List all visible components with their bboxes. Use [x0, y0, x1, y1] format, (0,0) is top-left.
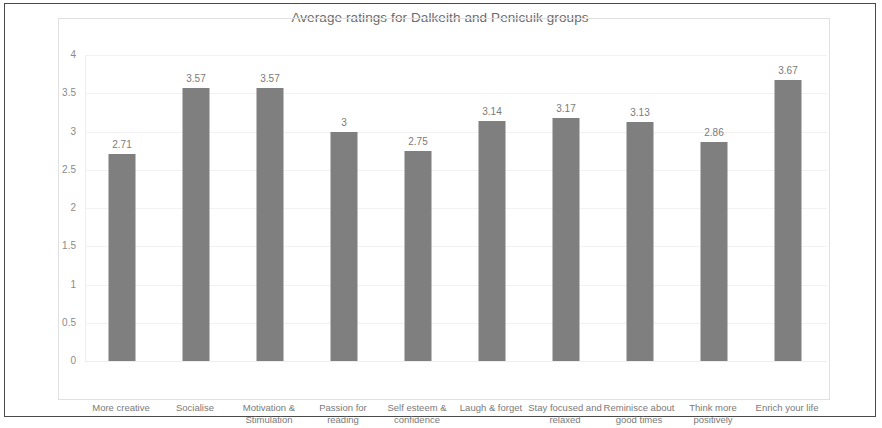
y-axis-tick-label: 4 [36, 49, 76, 60]
x-axis-category-label: Socialise [158, 402, 232, 414]
x-axis-category-label: Laugh & forget [454, 402, 528, 414]
bar[interactable] [775, 80, 802, 361]
bar-series: 2.713.573.5732.753.143.173.132.863.67 [59, 19, 829, 399]
x-axis-category-label: Passion for reading [306, 402, 380, 426]
bar-group[interactable]: 3.57 [159, 19, 233, 399]
y-axis-tick-label: 2.5 [36, 163, 76, 174]
bar-value-label: 3.13 [630, 107, 649, 118]
bar[interactable] [109, 154, 136, 361]
bar-value-label: 3.67 [778, 65, 797, 76]
x-axis-category-label: Self esteem & confidence [380, 402, 454, 426]
chart-frame: Average ratings for Dalkeith and Penicui… [4, 3, 876, 417]
bar-value-label: 3.17 [556, 103, 575, 114]
x-axis-category-label: Stay focused and relaxed [528, 402, 602, 426]
y-axis-tick-label: 2 [36, 202, 76, 213]
bar-group[interactable]: 3.67 [751, 19, 825, 399]
bar-group[interactable]: 2.71 [85, 19, 159, 399]
x-axis-category-labels: More creativeSocialiseMotivation & Stimu… [58, 402, 830, 428]
x-axis-category-label: Motivation & Stimulation [232, 402, 306, 426]
bar-group[interactable]: 3.57 [233, 19, 307, 399]
bar-group[interactable]: 3 [307, 19, 381, 399]
bar[interactable] [479, 121, 506, 361]
bar[interactable] [257, 88, 284, 361]
x-axis-category-label: Enrich your life [750, 402, 824, 414]
x-axis-category-label: Think more positively [676, 402, 750, 426]
bar-value-label: 2.71 [112, 139, 131, 150]
x-axis-category-label: Reminisce about good times [602, 402, 676, 426]
bar-value-label: 3.57 [186, 73, 205, 84]
bar-value-label: 3.57 [260, 73, 279, 84]
bar-value-label: 2.75 [408, 136, 427, 147]
bar-value-label: 2.86 [704, 127, 723, 138]
y-axis-tick-label: 1 [36, 278, 76, 289]
y-axis-tick-label: 3 [36, 125, 76, 136]
bar-value-label: 3.14 [482, 106, 501, 117]
x-axis-category-label: More creative [84, 402, 158, 414]
y-axis-tick-label: 1.5 [36, 240, 76, 251]
bar[interactable] [627, 122, 654, 361]
bar-group[interactable]: 3.17 [529, 19, 603, 399]
bar-group[interactable]: 2.86 [677, 19, 751, 399]
bar[interactable] [405, 151, 432, 361]
y-axis-tick-label: 0.5 [36, 316, 76, 327]
bar-group[interactable]: 2.75 [381, 19, 455, 399]
y-axis-tick-label: 3.5 [36, 87, 76, 98]
bar-group[interactable]: 3.14 [455, 19, 529, 399]
bar-value-label: 3 [341, 117, 347, 128]
bar[interactable] [183, 88, 210, 361]
plot-area: 2.713.573.5732.753.143.173.132.863.67 [58, 18, 830, 400]
bar[interactable] [331, 132, 358, 362]
bar[interactable] [553, 118, 580, 361]
bar[interactable] [701, 142, 728, 361]
y-axis-tick-label: 0 [36, 355, 76, 366]
bar-group[interactable]: 3.13 [603, 19, 677, 399]
